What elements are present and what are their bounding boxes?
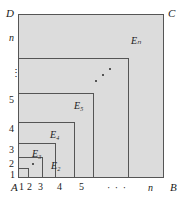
x-tick-1: 1	[19, 182, 24, 192]
y-tick-1: 1	[10, 170, 15, 180]
y-axis-ellipsis-icon: ⋮	[11, 68, 21, 78]
y-tick-5: 5	[9, 95, 14, 105]
x-tick-n: n	[148, 183, 153, 193]
region-label-E5: E₅	[74, 101, 84, 111]
y-tick-4: 4	[9, 124, 14, 134]
interior-marker-dot	[32, 163, 34, 165]
corner-label-C: C	[168, 8, 175, 19]
y-tick-3: 3	[9, 145, 14, 155]
diagonal-ellipsis-icon	[95, 68, 113, 82]
region-label-E3: E₃	[32, 149, 42, 159]
x-axis-ellipsis-icon: · · ·	[107, 183, 127, 193]
corner-label-B: B	[170, 182, 177, 193]
x-tick-3: 3	[38, 182, 43, 192]
square-E1	[18, 168, 29, 178]
region-label-En: Eₙ	[131, 36, 141, 46]
x-tick-5: 5	[79, 182, 84, 192]
y-tick-2: 2	[9, 159, 14, 169]
corner-label-D: D	[6, 8, 14, 19]
region-label-E4: E₄	[50, 130, 60, 140]
y-tick-n: n	[9, 33, 14, 43]
x-tick-4: 4	[57, 182, 62, 192]
nested-squares-figure: D C A B Eₙ E₅ E₄ E₃ E₂ 1 2 3 4 5 ⋮ n 1 2…	[0, 0, 189, 197]
corner-label-A: A	[11, 182, 18, 193]
x-tick-2: 2	[27, 182, 32, 192]
region-label-E2: E₂	[51, 161, 61, 171]
